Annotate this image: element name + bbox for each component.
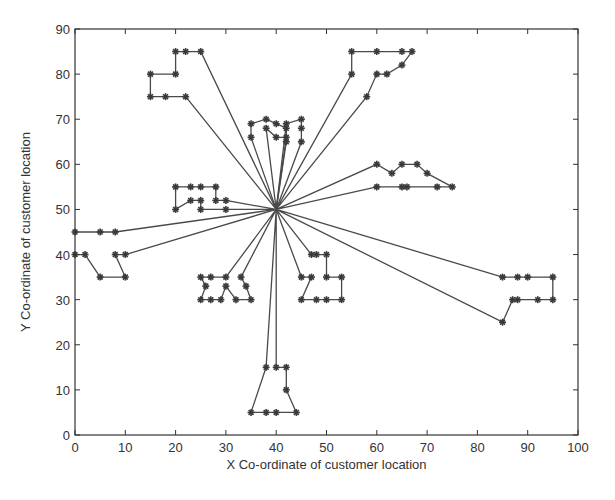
customer-marker bbox=[524, 274, 531, 281]
customer-marker bbox=[293, 409, 300, 416]
customer-marker bbox=[273, 134, 280, 141]
x-tick-label: 70 bbox=[420, 440, 434, 455]
customer-marker bbox=[212, 183, 219, 190]
customer-marker bbox=[534, 296, 541, 303]
customer-marker bbox=[197, 48, 204, 55]
route-line-route-4 bbox=[276, 119, 301, 209]
customer-marker bbox=[338, 274, 345, 281]
customer-marker bbox=[122, 251, 129, 258]
customer-marker bbox=[298, 116, 305, 123]
routes-layer bbox=[75, 52, 553, 413]
customer-marker bbox=[313, 251, 320, 258]
customer-marker bbox=[222, 197, 229, 204]
customer-marker bbox=[298, 138, 305, 145]
customer-marker bbox=[398, 48, 405, 55]
customer-marker bbox=[187, 183, 194, 190]
customer-marker bbox=[283, 386, 290, 393]
customer-marker bbox=[549, 296, 556, 303]
customer-marker bbox=[263, 409, 270, 416]
customer-marker bbox=[323, 274, 330, 281]
customer-marker bbox=[248, 120, 255, 127]
customer-marker bbox=[248, 296, 255, 303]
markers-layer bbox=[72, 48, 557, 416]
y-tick-label: 90 bbox=[56, 22, 70, 37]
customer-marker bbox=[283, 364, 290, 371]
customer-marker bbox=[172, 71, 179, 78]
customer-marker bbox=[383, 71, 390, 78]
customer-marker bbox=[197, 183, 204, 190]
customer-marker bbox=[197, 197, 204, 204]
customer-marker bbox=[162, 93, 169, 100]
customer-marker bbox=[298, 274, 305, 281]
customer-marker bbox=[373, 48, 380, 55]
customer-marker bbox=[373, 183, 380, 190]
customer-marker bbox=[197, 274, 204, 281]
customer-marker bbox=[273, 364, 280, 371]
x-tick-label: 80 bbox=[470, 440, 484, 455]
customer-marker bbox=[273, 409, 280, 416]
x-tick-label: 60 bbox=[370, 440, 384, 455]
y-tick-label: 30 bbox=[56, 293, 70, 308]
customer-marker bbox=[122, 274, 129, 281]
customer-marker bbox=[112, 251, 119, 258]
customer-marker bbox=[197, 206, 204, 213]
customer-marker bbox=[97, 229, 104, 236]
customer-marker bbox=[207, 274, 214, 281]
y-tick-label: 0 bbox=[63, 428, 70, 443]
customer-marker bbox=[424, 170, 431, 177]
x-tick-label: 40 bbox=[269, 440, 283, 455]
customer-marker bbox=[514, 274, 521, 281]
customer-marker bbox=[172, 48, 179, 55]
customer-marker bbox=[323, 251, 330, 258]
customer-marker bbox=[323, 296, 330, 303]
customer-marker bbox=[212, 197, 219, 204]
customer-marker bbox=[112, 229, 119, 236]
customer-marker bbox=[263, 116, 270, 123]
route-line-route-5 bbox=[276, 52, 412, 210]
customer-marker bbox=[237, 274, 244, 281]
customer-marker bbox=[434, 183, 441, 190]
customer-marker bbox=[348, 71, 355, 78]
customer-marker bbox=[338, 296, 345, 303]
route-line-route-10 bbox=[201, 209, 276, 299]
customer-marker bbox=[147, 93, 154, 100]
route-line-route-1 bbox=[150, 52, 276, 210]
customer-marker bbox=[222, 283, 229, 290]
customer-marker bbox=[248, 134, 255, 141]
customer-marker bbox=[182, 93, 189, 100]
customer-marker bbox=[449, 183, 456, 190]
customer-marker bbox=[222, 206, 229, 213]
customer-marker bbox=[298, 125, 305, 132]
customer-marker bbox=[373, 161, 380, 168]
x-tick-label: 0 bbox=[71, 440, 78, 455]
customer-marker bbox=[172, 183, 179, 190]
route-line-route-12 bbox=[276, 209, 553, 322]
y-tick-label: 10 bbox=[56, 383, 70, 398]
vehicle-routing-chart: 0102030405060708090100 01020304050607080… bbox=[0, 0, 615, 500]
customer-marker bbox=[263, 364, 270, 371]
customer-marker bbox=[273, 120, 280, 127]
customer-marker bbox=[197, 296, 204, 303]
x-tick-label: 90 bbox=[520, 440, 534, 455]
customer-marker bbox=[298, 296, 305, 303]
customer-marker bbox=[248, 409, 255, 416]
customer-marker bbox=[147, 71, 154, 78]
customer-marker bbox=[222, 274, 229, 281]
customer-marker bbox=[172, 206, 179, 213]
customer-marker bbox=[217, 296, 224, 303]
customer-marker bbox=[82, 251, 89, 258]
customer-marker bbox=[313, 296, 320, 303]
y-tick-label: 80 bbox=[56, 67, 70, 82]
customer-marker bbox=[243, 283, 250, 290]
y-tick-label: 40 bbox=[56, 248, 70, 263]
customer-marker bbox=[348, 48, 355, 55]
x-tick-label: 50 bbox=[319, 440, 333, 455]
customer-marker bbox=[187, 197, 194, 204]
x-tick-label: 100 bbox=[567, 440, 589, 455]
x-tick-label: 20 bbox=[168, 440, 182, 455]
customer-marker bbox=[398, 183, 405, 190]
customer-marker bbox=[499, 319, 506, 326]
customer-marker bbox=[499, 274, 506, 281]
customer-marker bbox=[202, 283, 209, 290]
customer-marker bbox=[549, 274, 556, 281]
